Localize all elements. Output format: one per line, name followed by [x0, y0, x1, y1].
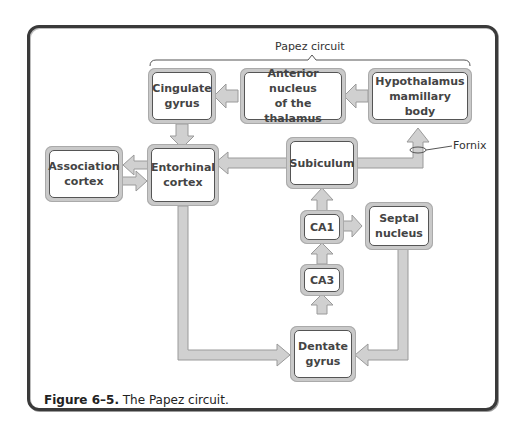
node-subiculum: Subiculum [286, 137, 358, 189]
figure-caption: Figure 6–5. The Papez circuit. [44, 393, 229, 407]
papez-circuit-label: Papez circuit [275, 40, 345, 53]
arrow-dentate-ca3 [311, 294, 333, 314]
node-association-cortex: Association cortex [45, 146, 123, 202]
arrow-subiculum-hypothalamus [356, 128, 429, 168]
arrow-septal-dentate [355, 248, 408, 366]
node-ca3: CA3 [300, 264, 344, 296]
node-cingulate-gyrus: Cingulate gyrus [148, 68, 216, 124]
arrow-hypothalamus-anterior [344, 84, 368, 108]
caption-number: Figure 6–5. [44, 393, 119, 407]
fornix-label: Fornix [453, 139, 487, 152]
papez-bracket [150, 55, 470, 66]
node-septal-nucleus: Septal nucleus [365, 202, 433, 250]
arrow-subiculum-entorhinal [215, 152, 290, 174]
node-anterior-nucleus: Anterior nucleus of the thalamus [240, 68, 346, 124]
node-dentate-gyrus: Dentate gyrus [290, 326, 356, 382]
arrow-entorhinal-dentate [178, 206, 290, 366]
arrow-ca3-ca1 [311, 243, 333, 264]
arrow-ca1-septal [342, 215, 362, 237]
node-hypothalamus: Hypothalamus mamillary body [368, 68, 472, 124]
caption-text: The Papez circuit. [123, 393, 229, 407]
node-ca1: CA1 [300, 210, 344, 244]
node-entorhinal-cortex: Entorhinal cortex [147, 144, 219, 206]
arrow-ca1-subiculum [311, 188, 333, 212]
arrow-anterior-cingulate [214, 84, 238, 108]
